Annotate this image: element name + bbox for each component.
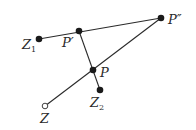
label-pdoubleprime: P″: [167, 12, 182, 27]
label-p: P: [99, 65, 109, 80]
label-z: Z: [39, 111, 50, 126]
point-z-open: [42, 103, 48, 109]
segment-pprime-z2: [79, 31, 100, 90]
point-z2: [97, 87, 104, 94]
point-z1: [36, 36, 43, 43]
point-pdoubleprime: [158, 15, 165, 22]
segment-z-pdoubleprime: [45, 18, 161, 106]
label-z2: Z2: [89, 95, 104, 112]
label-z1: Z1: [21, 37, 36, 54]
geometry-diagram: Z1 P′ P″ P Z2 Z: [0, 0, 196, 130]
segment-z1-pdoubleprime: [39, 18, 161, 39]
point-p: [90, 67, 97, 74]
point-pprime: [76, 28, 83, 35]
label-pprime: P′: [61, 35, 74, 50]
